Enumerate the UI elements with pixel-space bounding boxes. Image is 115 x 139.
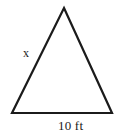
base-length-label: 10 ft (58, 119, 83, 132)
triangle-outline (12, 8, 112, 113)
geometry-figure: x 10 ft (0, 0, 115, 139)
side-length-label-x: x (23, 47, 29, 59)
